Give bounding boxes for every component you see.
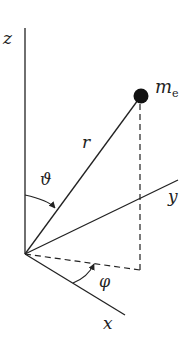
y-axis — [25, 180, 178, 254]
theta-label: ϑ — [40, 170, 51, 189]
mass-label: me — [155, 76, 179, 100]
phi-label: φ — [99, 272, 111, 291]
phi-arc-arrow — [73, 264, 94, 283]
horizontal-projection-dashed — [25, 254, 140, 270]
x-axis-label: x — [103, 313, 113, 333]
z-axis-label: z — [2, 28, 13, 48]
y-axis-label: y — [167, 186, 178, 206]
radius-label: r — [82, 132, 91, 152]
theta-arc-arrow — [25, 195, 55, 208]
spherical-coordinates-diagram: z y x r ϑ φ me — [0, 0, 191, 343]
particle-mass — [134, 89, 149, 104]
